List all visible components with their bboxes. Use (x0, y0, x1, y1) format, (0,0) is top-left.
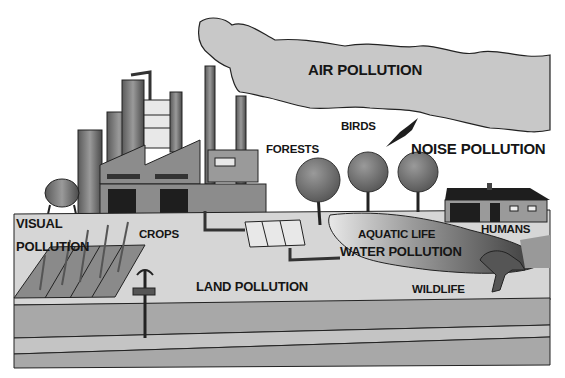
factory (45, 72, 266, 215)
label-aquatic-life: AQUATIC LIFE (358, 229, 435, 241)
label-humans: HUMANS (481, 224, 530, 236)
label-noise-pollution: NOISE POLLUTION (411, 141, 546, 156)
label-land-pollution: LAND POLLUTION (196, 280, 308, 293)
label-water-pollution: WATER POLLUTION (340, 245, 462, 258)
label-forests: FORESTS (266, 144, 319, 156)
label-air-pollution: AIR POLLUTION (308, 62, 422, 77)
bushes (520, 235, 550, 268)
label-birds: BIRDS (341, 121, 376, 133)
pollution-diagram: AIR POLLUTION BIRDS FORESTS NOISE POLLUT… (0, 0, 565, 378)
house (445, 183, 550, 222)
label-visual-pollution-1: VISUAL (16, 217, 62, 230)
label-wildlife: WILDLIFE (412, 284, 465, 296)
label-crops: CROPS (139, 229, 179, 241)
label-visual-pollution-2: POLLUTION (16, 240, 89, 253)
